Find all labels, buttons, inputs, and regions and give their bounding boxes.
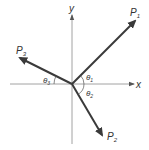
vector-p3-label: P3 (16, 45, 27, 57)
angle-theta2-label: θ2 (86, 89, 93, 99)
angle-theta1-label: θ1 (86, 73, 93, 83)
y-axis-label: y (68, 3, 75, 14)
vector-p2-label: P2 (107, 131, 118, 143)
vector-p1-arrow (72, 21, 135, 84)
vector-p1-label: P1 (130, 7, 140, 19)
angle-arc-theta3 (54, 76, 56, 84)
angle-arc-theta1 (81, 76, 85, 85)
x-axis-label: x (135, 79, 142, 90)
angle-arc-theta2 (78, 84, 84, 94)
angle-theta3-label: θ3 (43, 76, 50, 86)
vector-diagram: x y P1 P2 P3 θ1 θ2 θ3 (0, 0, 149, 150)
